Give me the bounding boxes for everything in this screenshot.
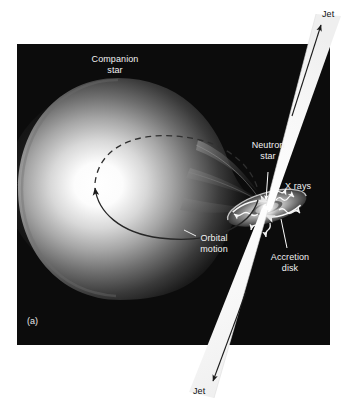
figure-illustration — [0, 0, 361, 409]
astronomy-figure-x-ray-binary: Companion star Neutron star X rays Accre… — [0, 0, 361, 409]
diagram-panel — [6, 44, 330, 345]
panel-tag: (a) — [27, 316, 38, 326]
